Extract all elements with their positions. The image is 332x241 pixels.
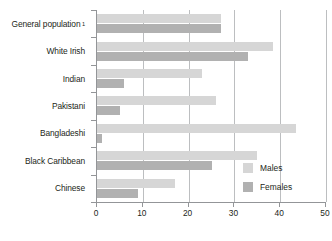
bar-group [97,37,326,64]
x-axis-tick [325,202,326,207]
bar-males [97,14,221,23]
x-axis-tick-label: 50 [320,208,329,218]
bar-group [97,65,326,92]
bar-group [97,10,326,37]
legend-entry-males: Males [243,163,292,173]
x-axis-tick [279,202,280,207]
x-axis-ticks [96,202,325,207]
x-axis-tick [96,202,97,207]
bar-group [97,120,326,147]
legend-label: Females [260,182,292,192]
legend-label: Males [260,163,282,173]
category-axis: General population1White IrishIndianPaki… [0,10,91,202]
x-axis-tick-label: 30 [229,208,238,218]
bar-males [97,69,202,78]
bar-males [97,124,296,133]
x-axis-tick [142,202,143,207]
legend-entry-females: Females [243,182,292,192]
bar-males [97,96,216,105]
category-label: Bangladeshi [0,120,91,147]
x-axis-tick [188,202,189,207]
gridline [326,10,327,202]
bar-females [97,106,120,115]
bar-chart: General population1White IrishIndianPaki… [0,0,332,241]
category-label: Indian [0,65,91,92]
x-axis-tick [233,202,234,207]
bar-females [97,189,138,198]
legend-swatch-males [243,163,253,173]
legend-swatch-females [243,182,253,192]
x-axis-tick-label: 20 [183,208,192,218]
category-label: Pakistani [0,92,91,119]
x-axis-tick-label: 40 [275,208,284,218]
category-label: White Irish [0,37,91,64]
bar-males [97,42,273,51]
category-label: Chinese [0,175,91,202]
bar-group [97,92,326,119]
bar-females [97,24,221,33]
x-axis-tick-labels: 01020304050 [96,208,325,222]
bar-females [97,52,248,61]
x-axis-tick-label: 10 [137,208,146,218]
bar-females [97,79,124,88]
bar-females [97,161,212,170]
bar-males [97,179,175,188]
bar-females [97,134,102,143]
x-axis-tick-label: 0 [94,208,99,218]
category-label-footnote: 1 [82,21,85,27]
legend: MalesFemales [243,163,292,192]
category-label: Black Caribbean [0,147,91,174]
bar-males [97,151,257,160]
category-label: General population1 [0,10,91,37]
